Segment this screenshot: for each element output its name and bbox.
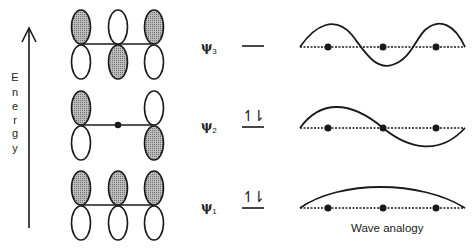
psi3-wave: [300, 24, 465, 66]
psi1-wave: [300, 187, 465, 212]
energy-label-letter: y: [9, 142, 21, 154]
allyl-mo-diagram: E n e r g y ψ3 ψ2 ψ1 ↿⇂ ↿⇂ Wave analogy: [0, 0, 476, 248]
energy-arrow-icon: [22, 28, 36, 228]
diagram-canvas: [0, 0, 476, 248]
psi2-p-orbitals: [72, 91, 164, 160]
energy-label-letter: n: [9, 86, 21, 98]
energy-label-letter: r: [9, 114, 21, 126]
psi3-p-orbitals: [72, 10, 164, 79]
psi2-label: ψ2: [201, 119, 217, 135]
psi3-label: ψ3: [201, 40, 217, 56]
psi1-label: ψ1: [201, 200, 217, 216]
psi2-electron-pair-icon: ↿⇂: [242, 107, 263, 125]
energy-label-letter: g: [9, 127, 21, 139]
energy-label-letter: E: [9, 71, 21, 83]
psi1-p-orbitals: [72, 171, 164, 240]
energy-label-letter: e: [9, 100, 21, 112]
wave-analogy-caption: Wave analogy: [351, 222, 423, 234]
psi2-wave: [300, 107, 465, 146]
psi1-electron-pair-icon: ↿⇂: [242, 188, 263, 206]
